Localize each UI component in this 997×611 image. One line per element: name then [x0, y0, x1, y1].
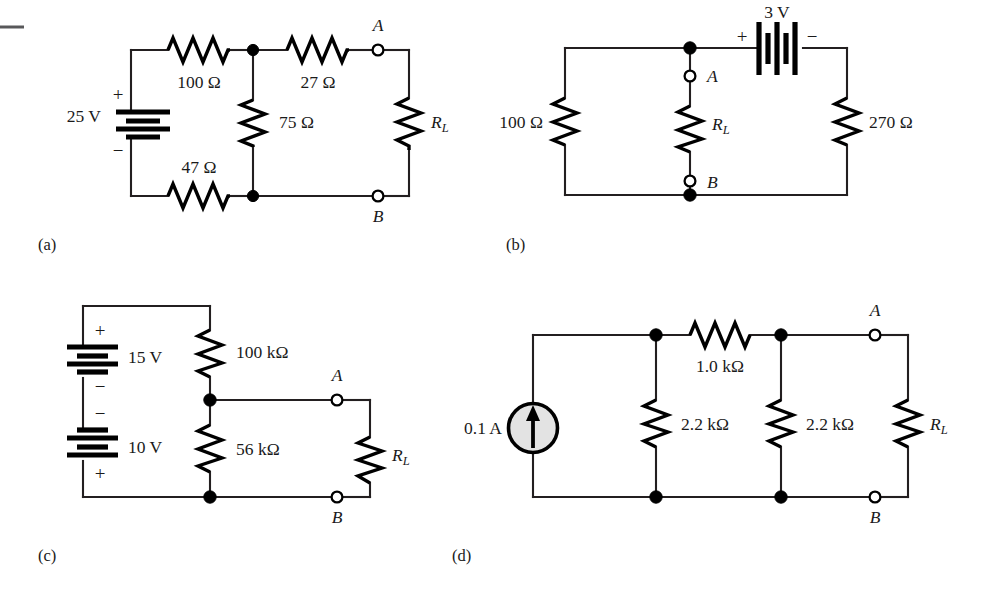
label-terminal-a-circuit-d: A: [869, 300, 881, 320]
label-terminal-a-circuit-a: A: [372, 15, 384, 35]
resistor-100-ohm-b-symbol: [553, 98, 577, 145]
node-dot-d-bottom-right: [775, 491, 787, 503]
circuit-c-group: 15 V + − 10 V − + 100 kΩ 56 kΩ RL A B (c…: [38, 306, 410, 565]
circuit-b-group: 100 Ω 270 Ω 3 V + − A B RL (b): [499, 2, 912, 254]
label-terminal-b-circuit-a: B: [373, 206, 384, 226]
label-source-3v: 3 V: [764, 2, 790, 22]
label-load-rl-c: RL: [391, 445, 410, 468]
current-source-symbol: [509, 404, 558, 453]
label-load-rl-b: RL: [711, 114, 730, 137]
resistor-rl-c-symbol: [358, 437, 382, 483]
circuit-d-group: 0.1 A 1.0 kΩ 2.2 kΩ 2.2 kΩ RL A B (d): [452, 300, 948, 565]
label-source-10v: 10 V: [128, 437, 163, 457]
label-terminal-b-circuit-b: B: [707, 172, 718, 192]
label-load-rl-a: RL: [430, 112, 449, 135]
resistor-2k2-left-symbol: [644, 400, 668, 447]
label-source-0p1a: 0.1 A: [464, 418, 502, 438]
caption-subfigure-b: (b): [506, 235, 525, 254]
terminal-a-circuit-b[interactable]: [685, 71, 696, 82]
label-polarity-minus-b: −: [807, 26, 818, 47]
label-resistor-100k: 100 kΩ: [236, 342, 288, 362]
label-source-25v: 25 V: [67, 106, 102, 126]
node-dot-a-bottom: [247, 190, 258, 201]
resistor-100k-symbol: [198, 330, 222, 377]
terminal-b-circuit-d[interactable]: [870, 492, 881, 503]
caption-subfigure-d: (d): [452, 546, 471, 565]
terminal-a-circuit-d[interactable]: [870, 330, 881, 341]
terminal-b-circuit-b[interactable]: [685, 176, 696, 187]
resistor-1k-symbol: [690, 323, 750, 347]
label-source-15v: 15 V: [128, 347, 163, 367]
battery-25v-symbol: [116, 112, 170, 137]
label-resistor-100-ohm-b: 100 Ω: [499, 112, 543, 132]
label-terminal-a-circuit-b: A: [706, 66, 718, 86]
label-polarity-plus-15v: +: [95, 320, 106, 341]
battery-15v-symbol: [67, 347, 118, 372]
label-resistor-2k2-left: 2.2 kΩ: [681, 414, 729, 434]
node-dot-d-bottom-left: [650, 491, 662, 503]
terminal-b-circuit-c[interactable]: [332, 492, 343, 503]
node-dot-a-top: [247, 44, 258, 55]
battery-3v-symbol: [759, 22, 795, 75]
resistor-rl-a-symbol: [397, 98, 421, 150]
node-dot-b-top: [684, 42, 696, 54]
node-dot-c-middle: [204, 394, 216, 406]
resistor-100-ohm-symbol: [168, 38, 230, 62]
resistor-75-ohm-symbol: [241, 100, 265, 147]
node-dot-c-bottom: [204, 491, 216, 503]
resistor-rl-b-symbol: [678, 106, 702, 152]
caption-subfigure-a: (a): [38, 235, 56, 254]
resistor-27-ohm-symbol: [287, 38, 349, 62]
terminal-a-circuit-c[interactable]: [332, 395, 343, 406]
label-resistor-2k2-right: 2.2 kΩ: [806, 414, 854, 434]
battery-10v-symbol: [67, 430, 118, 455]
resistor-270-ohm-symbol: [835, 98, 859, 145]
label-terminal-a-circuit-c: A: [331, 365, 343, 385]
label-polarity-plus-a: +: [113, 84, 124, 105]
resistor-47-ohm-symbol: [168, 184, 230, 208]
label-terminal-b-circuit-d: B: [870, 507, 881, 527]
label-terminal-b-circuit-c: B: [332, 507, 343, 527]
node-dot-d-top-left: [650, 329, 662, 341]
label-polarity-minus-a: −: [113, 140, 124, 161]
label-resistor-270-ohm: 270 Ω: [869, 112, 913, 132]
circuit-a-group: 25 V + − 100 Ω 27 Ω 75 Ω 47 Ω RL A B (a): [38, 15, 449, 254]
resistor-56k-symbol: [198, 425, 222, 472]
resistor-2k2-right-symbol: [769, 400, 793, 447]
node-dot-d-top-right: [775, 329, 787, 341]
label-polarity-minus-10v: −: [95, 403, 106, 424]
caption-subfigure-c: (c): [38, 546, 56, 565]
label-polarity-plus-10v: +: [95, 463, 106, 484]
circuit-figure-root: 25 V + − 100 Ω 27 Ω 75 Ω 47 Ω RL A B (a): [0, 0, 997, 611]
label-resistor-27-ohm: 27 Ω: [301, 72, 336, 92]
label-resistor-56k: 56 kΩ: [236, 439, 280, 459]
resistor-rl-d-symbol: [896, 400, 920, 447]
terminal-b-circuit-a[interactable]: [373, 191, 384, 202]
node-dot-b-bottom: [684, 189, 696, 201]
label-resistor-100-ohm: 100 Ω: [177, 72, 221, 92]
label-resistor-1k: 1.0 kΩ: [696, 356, 744, 376]
label-resistor-75-ohm: 75 Ω: [279, 112, 314, 132]
terminal-a-circuit-a[interactable]: [373, 45, 384, 56]
label-resistor-47-ohm: 47 Ω: [182, 157, 217, 177]
label-polarity-plus-b: +: [737, 26, 748, 47]
label-load-rl-d: RL: [929, 414, 948, 437]
circuit-figure-svg: 25 V + − 100 Ω 27 Ω 75 Ω 47 Ω RL A B (a): [0, 0, 997, 611]
label-polarity-minus-15v: −: [95, 376, 106, 397]
